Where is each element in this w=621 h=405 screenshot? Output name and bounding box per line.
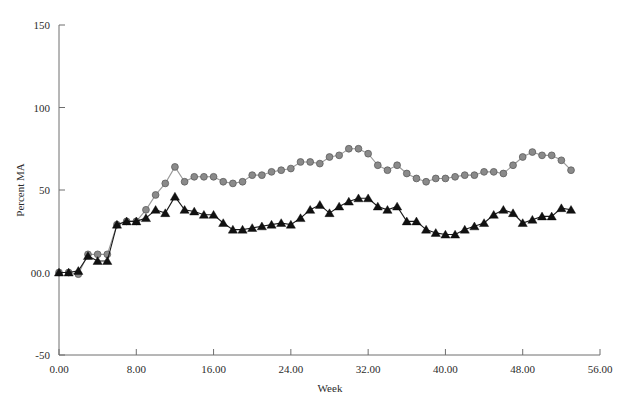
- data-point-circle: [413, 175, 420, 182]
- data-point-triangle: [393, 202, 402, 210]
- y-tick-label: 150: [34, 19, 51, 31]
- data-point-circle: [297, 159, 304, 166]
- data-point-triangle: [499, 206, 508, 214]
- data-point-circle: [239, 178, 246, 185]
- data-point-triangle: [344, 197, 353, 205]
- y-axis-ticks: 1501005000.0-50: [31, 19, 65, 361]
- series-layer: [54, 145, 575, 277]
- x-tick-label: 24.00: [278, 363, 303, 375]
- y-tick-label: 50: [39, 184, 51, 196]
- data-point-triangle: [170, 192, 179, 200]
- data-point-circle: [172, 164, 179, 171]
- data-point-circle: [307, 159, 314, 166]
- axes-group: [59, 25, 600, 355]
- x-tick-label: 0.00: [49, 363, 69, 375]
- data-point-circle: [539, 152, 546, 159]
- data-point-triangle: [306, 206, 315, 214]
- data-point-circle: [490, 168, 497, 175]
- data-point-triangle: [470, 222, 479, 230]
- y-tick-label: 00.0: [31, 267, 51, 279]
- data-point-circle: [365, 150, 372, 157]
- data-point-circle: [442, 175, 449, 182]
- data-point-circle: [558, 157, 565, 164]
- data-point-circle: [143, 206, 150, 213]
- data-point-circle: [316, 160, 323, 167]
- series-triangle: [54, 192, 575, 276]
- data-point-triangle: [161, 209, 170, 217]
- chart-container: 1501005000.0-50 0.008.0016.0024.0032.004…: [0, 0, 621, 405]
- data-point-triangle: [528, 215, 537, 223]
- x-tick-label: 48.00: [510, 363, 535, 375]
- data-point-triangle: [180, 206, 189, 214]
- data-point-circle: [278, 167, 285, 174]
- data-point-circle: [471, 172, 478, 179]
- data-point-circle: [152, 192, 159, 199]
- data-point-triangle: [151, 206, 160, 214]
- data-point-circle: [510, 162, 517, 169]
- y-tick-label: -50: [35, 349, 50, 361]
- data-point-circle: [201, 173, 208, 180]
- data-point-circle: [336, 152, 343, 159]
- data-point-circle: [287, 165, 294, 172]
- data-point-circle: [162, 180, 169, 187]
- data-point-circle: [249, 172, 256, 179]
- data-point-triangle: [557, 204, 566, 212]
- data-point-circle: [345, 145, 352, 152]
- data-point-circle: [394, 162, 401, 169]
- data-point-circle: [326, 154, 333, 161]
- data-point-circle: [432, 175, 439, 182]
- data-point-triangle: [508, 209, 517, 217]
- data-point-circle: [220, 178, 227, 185]
- data-point-circle: [423, 178, 430, 185]
- data-point-circle: [481, 168, 488, 175]
- data-point-circle: [529, 149, 536, 156]
- data-point-circle: [210, 173, 217, 180]
- data-point-circle: [452, 173, 459, 180]
- data-point-triangle: [431, 229, 440, 237]
- data-point-circle: [461, 172, 468, 179]
- x-tick-label: 8.00: [127, 363, 147, 375]
- data-point-circle: [355, 145, 362, 152]
- data-point-triangle: [383, 206, 392, 214]
- x-axis-title: Week: [318, 382, 343, 394]
- y-axis-title: Percent MA: [14, 163, 26, 217]
- data-point-triangle: [489, 210, 498, 218]
- data-point-circle: [384, 167, 391, 174]
- x-tick-label: 56.00: [588, 363, 613, 375]
- data-point-circle: [403, 170, 410, 177]
- data-point-circle: [229, 180, 236, 187]
- x-tick-label: 32.00: [356, 363, 381, 375]
- data-point-circle: [519, 154, 526, 161]
- data-point-circle: [548, 152, 555, 159]
- data-point-triangle: [277, 219, 286, 227]
- data-point-circle: [568, 167, 575, 174]
- x-axis-ticks: 0.008.0016.0024.0032.0040.0048.0056.00: [49, 349, 613, 375]
- data-point-circle: [268, 168, 275, 175]
- x-tick-label: 40.00: [433, 363, 458, 375]
- x-tick-label: 16.00: [201, 363, 226, 375]
- data-point-triangle: [460, 225, 469, 233]
- data-point-circle: [181, 178, 188, 185]
- data-point-triangle: [335, 202, 344, 210]
- y-tick-label: 100: [34, 102, 51, 114]
- data-point-circle: [258, 172, 265, 179]
- data-point-circle: [191, 173, 198, 180]
- data-point-circle: [374, 162, 381, 169]
- series-line-triangle: [59, 197, 571, 273]
- line-chart: 1501005000.0-50 0.008.0016.0024.0032.004…: [0, 0, 621, 405]
- data-point-circle: [500, 170, 507, 177]
- series-circle: [56, 145, 575, 277]
- data-point-triangle: [315, 201, 324, 209]
